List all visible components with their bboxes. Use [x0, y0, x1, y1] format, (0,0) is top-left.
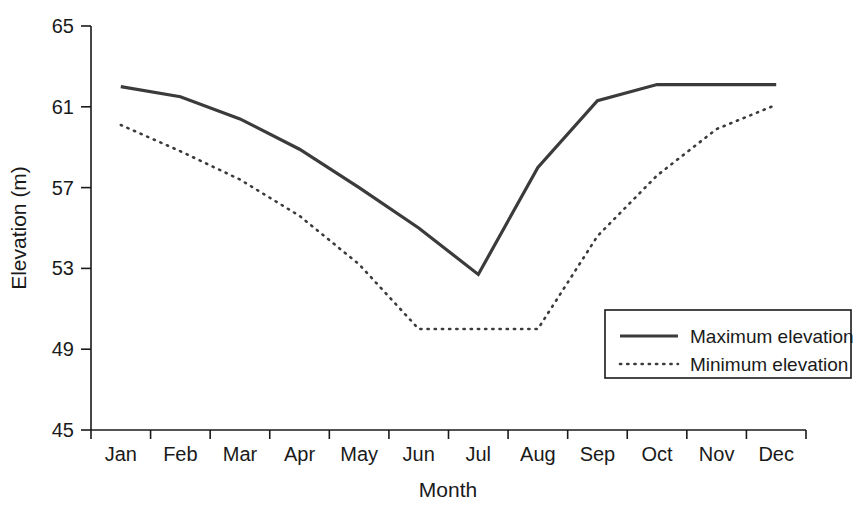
y-tick-label: 57	[52, 177, 74, 199]
legend-label-maximum-elevation: Maximum elevation	[690, 326, 854, 347]
x-tick-label: Jun	[403, 443, 435, 465]
x-axis-ticks	[91, 430, 806, 439]
x-tick-label: Jan	[105, 443, 137, 465]
x-tick-label: Aug	[520, 443, 556, 465]
y-axis-tick-labels: 45 49 53 57 61 65	[52, 15, 74, 441]
x-tick-label: Feb	[163, 443, 197, 465]
x-tick-label: Jul	[466, 443, 492, 465]
chart-container: 45 49 53 57 61 65 JanFebMarAprMayJunJulA…	[0, 0, 867, 510]
line-chart: 45 49 53 57 61 65 JanFebMarAprMayJunJulA…	[0, 0, 867, 510]
x-tick-label: Sep	[580, 443, 616, 465]
y-tick-label: 61	[52, 96, 74, 118]
x-axis-title: Month	[419, 478, 477, 501]
x-tick-label: Mar	[223, 443, 258, 465]
x-axis-tick-labels: JanFebMarAprMayJunJulAugSepOctNovDec	[105, 443, 794, 465]
x-tick-label: Apr	[284, 443, 315, 465]
legend: Maximum elevation Minimum elevation	[605, 310, 854, 378]
y-tick-label: 53	[52, 257, 74, 279]
series-line-minimum-elevation	[121, 105, 776, 329]
x-tick-label: Nov	[699, 443, 735, 465]
y-tick-label: 65	[52, 15, 74, 37]
legend-label-minimum-elevation: Minimum elevation	[690, 354, 848, 375]
x-tick-label: May	[340, 443, 378, 465]
y-axis-ticks	[81, 26, 91, 430]
series-line-maximum-elevation	[121, 85, 776, 275]
y-tick-label: 45	[52, 419, 74, 441]
x-tick-label: Dec	[758, 443, 794, 465]
x-tick-label: Oct	[641, 443, 673, 465]
y-axis-title: Elevation (m)	[7, 166, 30, 290]
y-tick-label: 49	[52, 338, 74, 360]
